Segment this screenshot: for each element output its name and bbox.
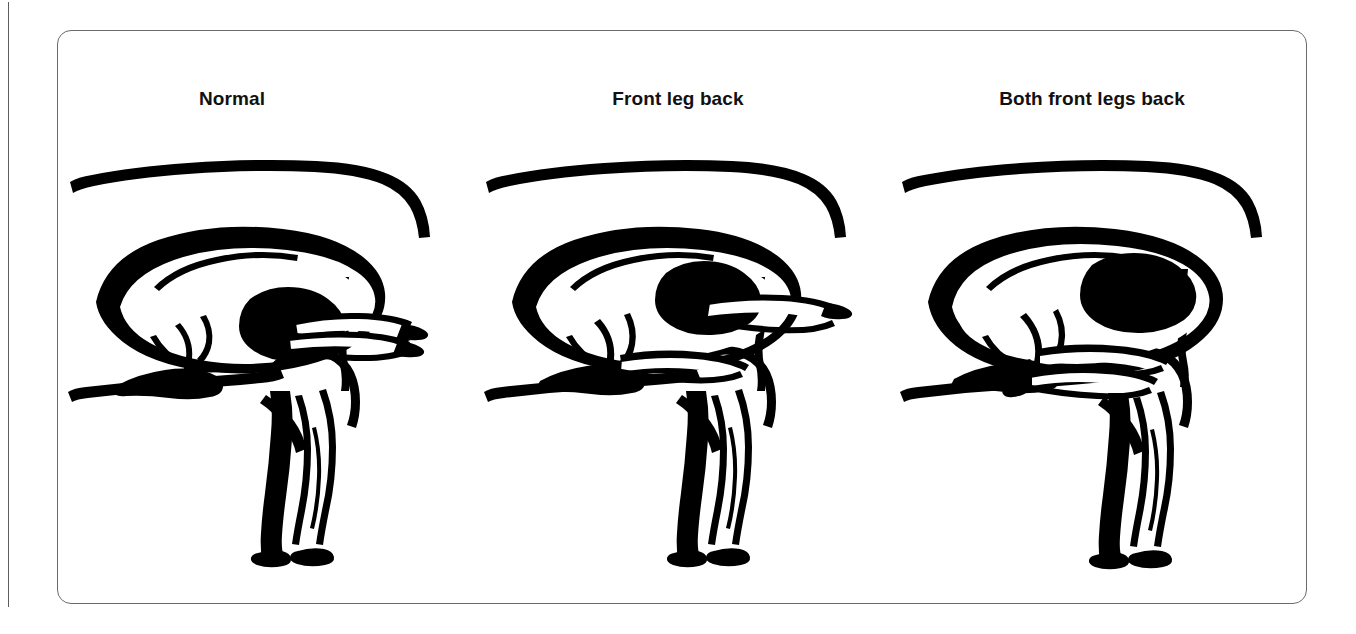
illustration-both-front-legs-back xyxy=(890,127,1306,575)
ewe-lambing-both-legs-back-svg xyxy=(890,127,1306,575)
lamb-hind-leg-outline xyxy=(114,369,223,400)
lamb-hoof-out xyxy=(821,303,852,319)
panel-row: Normal xyxy=(58,31,1306,603)
ewe-near-hoof xyxy=(251,550,291,567)
page-sheet: Normal xyxy=(0,0,1356,634)
ewe-outline-group xyxy=(484,160,852,567)
panel-label-front-leg-back: Front leg back xyxy=(470,89,886,108)
ewe-far-hoof xyxy=(1128,550,1172,568)
panel-label-normal: Normal xyxy=(24,89,440,108)
illustration-normal xyxy=(58,127,474,575)
ewe-topline xyxy=(70,160,430,238)
ewe-far-hoof xyxy=(706,548,750,566)
ewe-lambing-normal-svg xyxy=(58,127,474,575)
ewe-lambing-front-leg-back-svg xyxy=(474,127,890,575)
illustration-front-leg-back xyxy=(474,127,890,575)
ewe-topline xyxy=(486,160,846,238)
figure-frame: Normal xyxy=(57,30,1307,604)
ewe-near-hoof xyxy=(1089,552,1129,569)
page-edge-rule xyxy=(8,2,9,607)
panel-both-front-legs-back: Both front legs back xyxy=(890,31,1306,603)
panel-front-leg-back: Front leg back xyxy=(474,31,890,603)
ewe-near-hoof xyxy=(667,550,707,567)
ewe-far-hoof xyxy=(290,548,334,566)
panel-normal: Normal xyxy=(58,31,474,603)
ewe-topline xyxy=(902,160,1262,238)
panel-label-both-front-legs-back: Both front legs back xyxy=(884,89,1300,108)
ewe-outline-group xyxy=(68,160,430,567)
ewe-outline-group xyxy=(900,160,1262,569)
